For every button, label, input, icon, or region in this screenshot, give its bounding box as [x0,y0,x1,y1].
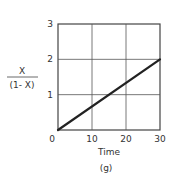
x-axis-ticks: 0102030 [49,134,166,144]
y-axis-ticks: 123 [47,19,53,100]
plot-area [58,24,160,130]
y-tick-label: 3 [47,19,53,29]
y-tick-label: 1 [47,90,53,100]
x-axis-label: Time [97,147,120,157]
y-label-denominator: (1- X) [9,80,34,90]
x-tick-label: 0 [49,134,55,144]
y-tick-label: 2 [47,54,53,64]
y-label-numerator: X [19,66,25,76]
x-tick-label: 20 [120,134,132,144]
plot-frame [58,24,160,130]
y-axis-label: X (1- X) [7,66,38,90]
x-tick-label: 10 [86,134,98,144]
panel-label: (g) [100,163,113,173]
chart: 123 0102030 X (1- X) Time (g) [0,0,173,183]
x-tick-label: 30 [154,134,166,144]
gridlines [58,24,160,130]
